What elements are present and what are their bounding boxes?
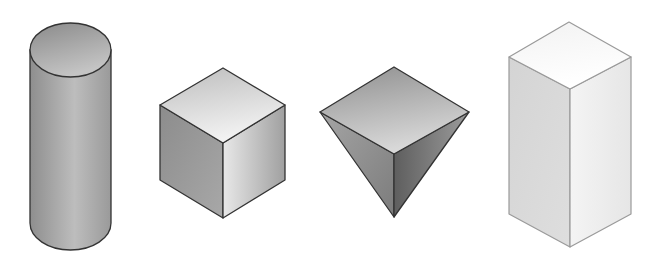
cylinder-top — [30, 23, 111, 77]
prism-left-face — [509, 57, 570, 247]
pyramid-shape — [320, 67, 469, 217]
cube-shape — [160, 68, 285, 218]
cylinder-shape — [30, 23, 111, 250]
shapes-canvas — [0, 0, 670, 269]
prism-shape — [509, 22, 631, 247]
cylinder-side — [30, 50, 111, 250]
shapes-figure — [0, 0, 670, 269]
prism-right-face — [570, 57, 631, 247]
